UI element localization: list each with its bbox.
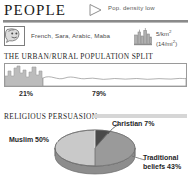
- page-title: PEOPLE: [4, 1, 66, 19]
- pie-label-christian: Christian 7%: [112, 120, 154, 129]
- pie-chart-graphic: [0, 118, 191, 185]
- panel-header: PEOPLE Pop. density low: [3, 1, 188, 21]
- religion-pie-chart: Christian 7% Muslim 50% Traditionalbelie…: [0, 118, 191, 185]
- urban-rural-silhouette: [5, 64, 186, 86]
- languages-label: French, Sara, Arabic, Maba: [31, 32, 110, 39]
- triangle-right-icon: [89, 3, 103, 17]
- facts-row: French, Sara, Arabic, Maba 5/k: [3, 26, 188, 48]
- pie-label-traditional: Traditionalbeliefs 43%: [143, 154, 181, 171]
- density-metric-exponent: 2: [169, 29, 171, 34]
- header-rule-thin: [3, 22, 188, 23]
- density-imperial: (14/mi: [156, 41, 173, 47]
- urban-rural-title: THE URBAN/RURAL POPULATION SPLIT: [4, 52, 153, 61]
- population-density-value: 5/km2 (14/mi2): [156, 28, 177, 48]
- pie-label-muslim: Muslim 50%: [9, 136, 49, 145]
- density-metric: 5/km: [156, 31, 169, 37]
- city-buildings-icon: [134, 27, 152, 46]
- urban-percent-label: 21%: [19, 90, 33, 97]
- pop-density-note: Pop. density low: [108, 5, 155, 11]
- rural-percent-label: 79%: [92, 90, 106, 97]
- speaking-head-icon: [4, 26, 25, 46]
- urban-rural-band: [4, 63, 187, 87]
- people-infographic-panel: PEOPLE Pop. density low French, Sara, Ar…: [0, 0, 191, 185]
- density-imperial-close: ): [175, 41, 177, 47]
